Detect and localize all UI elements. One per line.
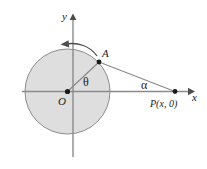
- point-a: [97, 60, 102, 65]
- segment-ap: [99, 62, 175, 92]
- theta-label: θ: [83, 76, 89, 88]
- figure-canvas: [0, 0, 207, 169]
- alpha-label: α: [141, 79, 147, 91]
- y-axis-label: y: [62, 11, 67, 22]
- point-p: [173, 89, 178, 94]
- up-arrow-icon: [70, 14, 77, 21]
- point-a-label: A: [102, 48, 109, 59]
- counterclockwise-arrow-head-icon: [61, 40, 70, 47]
- point-origin: [65, 89, 70, 94]
- point-p-label: P(x, 0): [150, 99, 177, 109]
- origin-label: O: [58, 96, 66, 107]
- x-axis-label: x: [192, 92, 197, 103]
- geometry-figure: y x O A θ α P(x, 0): [0, 0, 207, 169]
